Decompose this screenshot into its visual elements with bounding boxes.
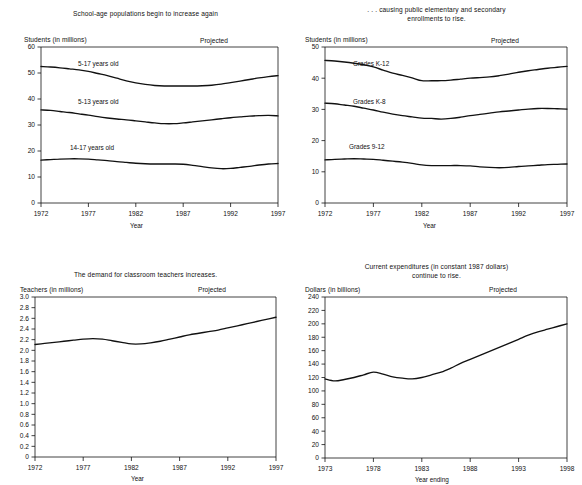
svg-text:1.4: 1.4 <box>20 379 29 386</box>
svg-text:10: 10 <box>28 173 36 180</box>
svg-text:1.0: 1.0 <box>20 400 29 407</box>
figure-sheet: School-age populations begin to increase… <box>0 0 582 485</box>
svg-text:60: 60 <box>28 43 36 50</box>
svg-text:30: 30 <box>28 121 36 128</box>
chart-panel-school-age-populations: School-age populations begin to increase… <box>0 0 291 242</box>
svg-text:30: 30 <box>312 106 320 113</box>
svg-text:80: 80 <box>312 401 320 408</box>
svg-text:160: 160 <box>308 347 319 354</box>
svg-text:240: 240 <box>308 293 319 300</box>
svg-text:1992: 1992 <box>223 210 238 217</box>
svg-text:1998: 1998 <box>560 465 575 472</box>
svg-text:0.2: 0.2 <box>20 443 29 450</box>
svg-text:1977: 1977 <box>81 210 96 217</box>
svg-text:40: 40 <box>312 75 320 82</box>
svg-text:100: 100 <box>308 387 319 394</box>
chart-panel-current-expenditures: Current expenditures (in constant 1987 d… <box>291 253 582 485</box>
svg-text:2.2: 2.2 <box>20 336 29 343</box>
svg-text:1982: 1982 <box>414 210 429 217</box>
svg-text:1.2: 1.2 <box>20 389 29 396</box>
svg-text:1982: 1982 <box>128 210 143 217</box>
chart-plot-area: 00.20.40.60.81.01.21.41.61.82.02.22.42.6… <box>0 253 291 485</box>
svg-text:2.6: 2.6 <box>20 315 29 322</box>
svg-text:3.0: 3.0 <box>20 293 29 300</box>
svg-text:1.8: 1.8 <box>20 357 29 364</box>
svg-text:2.8: 2.8 <box>20 304 29 311</box>
svg-text:1977: 1977 <box>76 464 91 471</box>
svg-text:60: 60 <box>312 414 320 421</box>
svg-text:0: 0 <box>315 199 319 206</box>
svg-text:1997: 1997 <box>269 464 284 471</box>
svg-text:2.0: 2.0 <box>20 347 29 354</box>
svg-text:40: 40 <box>28 95 36 102</box>
chart-panel-public-enrollments: . . . causing public elementary and seco… <box>291 0 582 242</box>
svg-text:1983: 1983 <box>414 465 429 472</box>
svg-text:200: 200 <box>308 320 319 327</box>
svg-text:140: 140 <box>308 360 319 367</box>
svg-text:1992: 1992 <box>511 210 526 217</box>
svg-text:0.6: 0.6 <box>20 421 29 428</box>
chart-plot-area: 0204060801001201401601802002202401973197… <box>291 253 582 485</box>
svg-text:1987: 1987 <box>463 210 478 217</box>
chart-plot-area: 0102030405060197219771982198719921997 <box>0 0 291 242</box>
svg-text:0.8: 0.8 <box>20 411 29 418</box>
svg-text:50: 50 <box>312 43 320 50</box>
svg-text:1977: 1977 <box>366 210 381 217</box>
svg-text:20: 20 <box>312 441 320 448</box>
svg-text:0: 0 <box>31 199 35 206</box>
svg-text:1993: 1993 <box>511 465 526 472</box>
svg-text:1987: 1987 <box>172 464 187 471</box>
svg-text:10: 10 <box>312 168 320 175</box>
svg-text:220: 220 <box>308 307 319 314</box>
svg-text:1978: 1978 <box>366 465 381 472</box>
svg-text:1987: 1987 <box>176 210 191 217</box>
svg-text:2.4: 2.4 <box>20 325 29 332</box>
svg-text:1972: 1972 <box>28 464 43 471</box>
svg-text:120: 120 <box>308 374 319 381</box>
svg-text:1.6: 1.6 <box>20 368 29 375</box>
svg-text:1997: 1997 <box>560 210 575 217</box>
svg-text:1992: 1992 <box>220 464 235 471</box>
chart-plot-area: 01020304050197219771982198719921997 <box>291 0 582 242</box>
svg-text:0: 0 <box>315 454 319 461</box>
svg-text:40: 40 <box>312 428 320 435</box>
chart-panel-classroom-teachers: The demand for classroom teachers increa… <box>0 253 291 485</box>
svg-text:50: 50 <box>28 69 36 76</box>
svg-text:1972: 1972 <box>34 210 49 217</box>
svg-text:1982: 1982 <box>124 464 139 471</box>
svg-text:20: 20 <box>312 137 320 144</box>
svg-text:1988: 1988 <box>463 465 478 472</box>
svg-text:1973: 1973 <box>318 465 333 472</box>
svg-text:1997: 1997 <box>271 210 286 217</box>
svg-text:20: 20 <box>28 147 36 154</box>
svg-text:180: 180 <box>308 334 319 341</box>
svg-text:0.4: 0.4 <box>20 432 29 439</box>
svg-text:0: 0 <box>25 453 29 460</box>
svg-text:1972: 1972 <box>318 210 333 217</box>
